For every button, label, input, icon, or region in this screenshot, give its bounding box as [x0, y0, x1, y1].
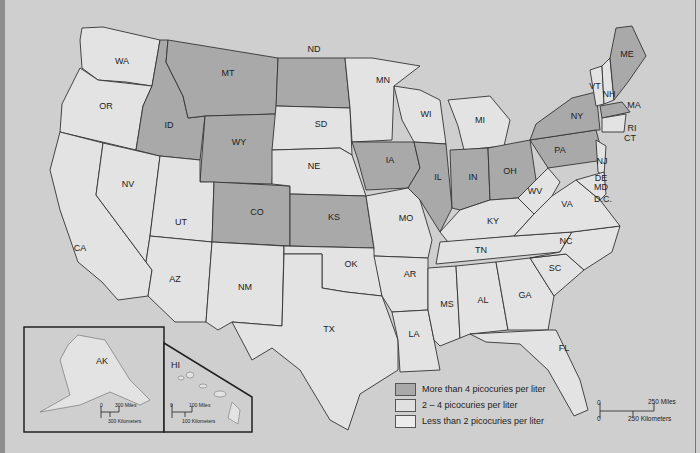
- state-label-wv: WV: [528, 186, 543, 196]
- state-label-oh: OH: [503, 166, 517, 176]
- state-label-ga: GA: [518, 290, 531, 300]
- state-label-ny: NY: [571, 111, 584, 121]
- state-label-az: AZ: [169, 274, 181, 284]
- state-nd: [276, 58, 350, 108]
- alaska-scale-miles: 300 Miles: [115, 402, 137, 408]
- state-label-nh: NH: [603, 89, 616, 99]
- legend-swatch-high: [395, 383, 416, 396]
- legend-swatch-low: [395, 415, 416, 428]
- state-label-la: LA: [408, 329, 419, 339]
- state-label-tx: TX: [323, 324, 335, 334]
- state-label-co: CO: [250, 207, 264, 217]
- state-label-mi: MI: [475, 115, 485, 125]
- state-label-sc: SC: [549, 263, 562, 273]
- state-label-pa: PA: [554, 145, 565, 155]
- legend-swatch-mid: [395, 399, 416, 412]
- state-label-ks: KS: [328, 212, 340, 222]
- legend-item-mid: 2 – 4 picocuries per liter: [395, 397, 546, 413]
- state-ia: [352, 142, 420, 190]
- scale-zero-top: 0: [597, 399, 601, 406]
- legend-label-low: Less than 2 picocuries per liter: [422, 416, 544, 426]
- state-label-mo: MO: [399, 213, 414, 223]
- state-label-ms: MS: [440, 299, 454, 309]
- alaska-label: AK: [96, 356, 108, 366]
- state-label-ma: MA: [627, 100, 641, 110]
- state-label-ca: CA: [74, 243, 87, 253]
- state-label-id: ID: [165, 120, 175, 130]
- legend-item-high: More than 4 picocuries per liter: [395, 381, 546, 397]
- state-label-ia: IA: [386, 155, 395, 165]
- scale-km: 250 Kilometers: [628, 415, 671, 422]
- state-label-ar: AR: [404, 269, 417, 279]
- state-label-md: MD: [594, 182, 608, 192]
- state-label-tn: TN: [475, 245, 487, 255]
- state-label-dc.: D.C.: [594, 194, 612, 204]
- state-wy: [200, 114, 276, 184]
- state-label-wa: WA: [115, 56, 129, 66]
- scale-miles: 250 Miles: [648, 398, 676, 405]
- hawaii-scale-km: 100 Kilometers: [182, 418, 216, 424]
- state-label-ut: UT: [175, 217, 187, 227]
- alaska-scale-zero: 0: [100, 402, 103, 408]
- state-label-nd: ND: [308, 44, 321, 54]
- hawaii-label: HI: [171, 360, 180, 370]
- state-label-wy: WY: [232, 137, 247, 147]
- us-radon-map: WAORCANVIDMTWYUTAZCONMNDSDNEKSOKTXMNIAMO…: [0, 0, 700, 453]
- state-label-vt: VT: [589, 81, 601, 91]
- state-label-nj: NJ: [597, 156, 608, 166]
- legend-item-low: Less than 2 picocuries per liter: [395, 413, 546, 429]
- state-label-in: IN: [469, 172, 478, 182]
- state-label-nv: NV: [122, 179, 135, 189]
- hawaii-scale-zero: 0: [170, 402, 173, 408]
- state-label-nm: NM: [238, 282, 252, 292]
- state-label-ct: CT: [624, 133, 636, 143]
- state-label-ri: RI: [628, 123, 637, 133]
- scale-zero-bottom: 0: [597, 415, 601, 422]
- state-label-fl: FL: [559, 343, 570, 353]
- state-label-il: IL: [434, 172, 442, 182]
- hawaii-scale-miles: 100 Miles: [189, 402, 211, 408]
- state-label-va: VA: [561, 199, 572, 209]
- state-label-ky: KY: [487, 216, 499, 226]
- legend-label-mid: 2 – 4 picocuries per liter: [422, 400, 518, 410]
- alaska-scale-km: 300 Kilometers: [108, 418, 142, 424]
- state-label-ok: OK: [344, 259, 357, 269]
- legend-label-high: More than 4 picocuries per liter: [422, 384, 546, 394]
- state-label-me: ME: [620, 49, 634, 59]
- state-label-mn: MN: [376, 75, 390, 85]
- state-label-nc: NC: [560, 236, 573, 246]
- state-label-or: OR: [99, 101, 113, 111]
- state-label-wi: WI: [421, 109, 432, 119]
- state-label-ne: NE: [308, 161, 321, 171]
- state-label-al: AL: [477, 295, 488, 305]
- state-label-sd: SD: [315, 119, 328, 129]
- state-label-mt: MT: [222, 68, 235, 78]
- legend: More than 4 picocuries per liter 2 – 4 p…: [395, 381, 546, 429]
